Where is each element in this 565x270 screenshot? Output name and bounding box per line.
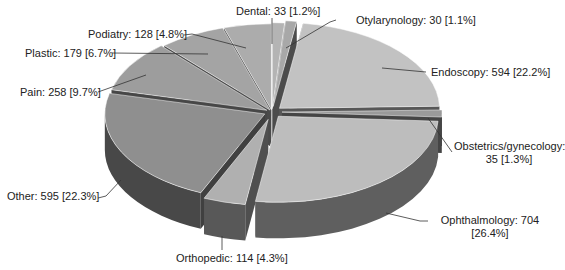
label-endoscopy: Endoscopy: 594 [22.2%] <box>431 66 550 79</box>
slice-side-orthopedic <box>204 198 245 240</box>
slice-endoscopy <box>279 23 439 108</box>
label-podiatry: Podiatry: 128 [4.8%] <box>88 28 187 41</box>
label-obstetrics-line2: 35 [1.3%] <box>454 153 564 166</box>
label-dental: Dental: 33 [1.2%] <box>236 5 320 18</box>
label-obstetrics-gynecology: Obstetrics/gynecology: 35 [1.3%] <box>454 140 564 166</box>
label-pain: Pain: 258 [9.7%] <box>20 86 101 99</box>
label-otylarynology: Otylarynology: 30 [1.1%] <box>356 14 476 27</box>
label-other: Other: 595 [22.3%] <box>7 190 99 203</box>
label-obstetrics-line1: Obstetrics/gynecology: <box>454 140 564 153</box>
label-orthopedic: Orthopedic: 114 [4.3%] <box>176 252 288 265</box>
leader-line-ophthalmology <box>386 213 428 221</box>
label-plastic: Plastic: 179 [6.7%] <box>25 47 116 60</box>
label-ophthalmology-line2: [26.4%] <box>430 227 550 240</box>
label-ophthalmology: Ophthalmology: 704 [26.4%] <box>430 214 550 240</box>
label-ophthalmology-line1: Ophthalmology: 704 <box>430 214 550 227</box>
